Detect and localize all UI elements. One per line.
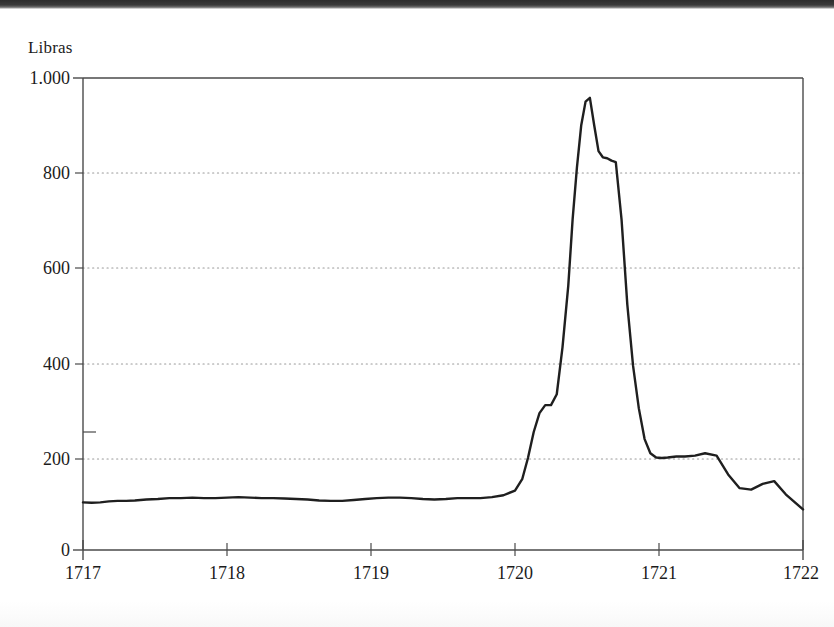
y-tick-label-1000: 1.000: [0, 68, 70, 88]
y-tick-label-800: 800: [0, 163, 70, 183]
y-tick-label-400: 400: [0, 354, 70, 374]
x-tick-label-1718: 1718: [182, 563, 272, 583]
data-series-line: [83, 98, 803, 510]
x-tick-label-1720: 1720: [470, 563, 560, 583]
y-tick-label-600: 600: [0, 258, 70, 278]
x-tick-label-1719: 1719: [326, 563, 416, 583]
x-tick-label-1721: 1721: [614, 563, 704, 583]
y-tick-label-0: 0: [0, 540, 70, 560]
y-tick-label-200: 200: [0, 449, 70, 469]
chart-figure: Libras: [0, 0, 834, 627]
x-tick-label-1722: 1722: [756, 563, 834, 583]
scan-artifact-bottom-band: [0, 601, 834, 627]
gridlines: [83, 173, 803, 459]
plot-frame: [83, 78, 803, 550]
y-axis-ticks: [73, 78, 96, 550]
line-chart-plot: [0, 0, 834, 627]
x-tick-label-1717: 1717: [38, 563, 128, 583]
